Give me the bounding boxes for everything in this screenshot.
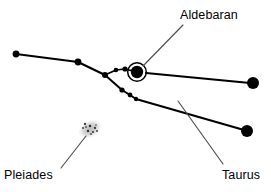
pleiades-haze (75, 116, 105, 143)
constellation-canvas (0, 0, 271, 192)
pleiades-star (84, 123, 86, 125)
line-lower-horn (136, 99, 244, 130)
star-jaw-b (128, 93, 133, 98)
line-left-horn (16, 54, 105, 75)
pleiades-star (85, 126, 87, 128)
star-horn-tip-left (13, 51, 20, 58)
pleiades-star (94, 127, 96, 129)
pleiades-cluster (75, 116, 105, 143)
star-horn-tip-lower-right (241, 125, 253, 137)
label-aldebaran: Aldebaran (180, 8, 238, 22)
pleiades-star (89, 125, 92, 128)
pleiades-star (87, 130, 89, 132)
pleiades-star (96, 130, 98, 132)
line-upper-horn (146, 73, 250, 83)
star-horn-mid (75, 59, 82, 66)
pleiades-star (82, 127, 84, 129)
leader-aldebaran (143, 25, 183, 66)
star-face-a (114, 68, 119, 73)
star-horn-tip-upper-right (247, 77, 259, 89)
label-pleiades: Pleiades (4, 168, 53, 182)
pleiades-star (92, 131, 94, 133)
star-jaw-c (134, 97, 138, 101)
constellation-lines-group (16, 54, 250, 130)
star-chart-figure: Aldebaran Pleiades Taurus (0, 0, 271, 192)
pleiades-star (95, 124, 97, 126)
star-aldebaran (131, 66, 143, 78)
leader-lines-group (61, 25, 223, 168)
leader-taurus (178, 101, 223, 164)
star-jaw-a (119, 87, 124, 92)
star-face-b (122, 66, 127, 71)
pleiades-star (90, 133, 92, 135)
label-taurus: Taurus (222, 168, 260, 182)
leader-pleiades (61, 136, 86, 168)
star-junction (102, 72, 108, 78)
